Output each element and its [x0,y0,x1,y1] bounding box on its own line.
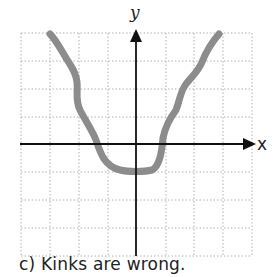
graph-figure: y x c) Kinks are wrong. [0,0,273,277]
axes [20,40,246,256]
x-axis-label: x [257,134,267,154]
y-axis-label: y [130,2,140,22]
figure-caption: c) Kinks are wrong. [19,254,186,274]
x-axis-arrow-icon [243,138,256,150]
y-axis-arrow-icon [130,29,142,42]
coordinate-plane [0,0,273,277]
